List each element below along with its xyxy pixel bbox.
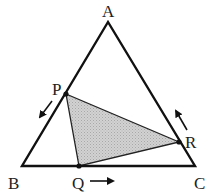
- point-q: [76, 163, 81, 168]
- shaded-triangle-pqr: [66, 94, 179, 166]
- label-q: Q: [72, 174, 84, 193]
- point-r: [176, 139, 181, 144]
- label-c: C: [194, 174, 205, 193]
- label-r: R: [185, 133, 197, 152]
- triangle-diagram: A B C P Q R: [0, 0, 218, 196]
- label-a: A: [102, 2, 115, 21]
- label-p: P: [52, 80, 61, 99]
- arrow-r-icon: [176, 111, 187, 130]
- arrow-p-icon: [40, 101, 52, 117]
- label-b: B: [8, 174, 19, 193]
- point-p: [63, 91, 68, 96]
- diagram-canvas: A B C P Q R: [0, 0, 218, 196]
